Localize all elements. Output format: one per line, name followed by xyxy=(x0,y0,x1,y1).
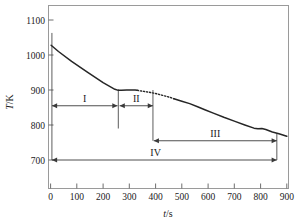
y-axis-title-unit: /K xyxy=(4,93,15,104)
y-tick-label: 1100 xyxy=(26,16,45,26)
region-label-II: II xyxy=(133,93,140,104)
y-tick-label: 800 xyxy=(31,121,46,131)
x-tick-label: 200 xyxy=(96,192,111,202)
x-tick-label: 600 xyxy=(201,192,216,202)
x-tick-label: 800 xyxy=(253,192,268,202)
chart-container: 1100 1000 900 800 700 T/K 0 xyxy=(0,0,299,224)
x-tick-label: 900 xyxy=(280,192,295,202)
x-axis-title-unit: /s xyxy=(166,208,173,219)
y-tick-label: 1000 xyxy=(26,51,45,61)
y-axis-title: T/K xyxy=(4,93,15,109)
x-tick-label: 500 xyxy=(175,192,190,202)
region-label-I: I xyxy=(83,93,86,104)
chart-background xyxy=(0,0,299,224)
x-tick-label: 700 xyxy=(227,192,242,202)
region-label-III: III xyxy=(210,128,220,139)
x-tick-label: 100 xyxy=(70,192,85,202)
x-tick-label: 0 xyxy=(48,192,53,202)
region-label-IV: IV xyxy=(150,147,161,158)
cooling-curve-chart: 1100 1000 900 800 700 T/K 0 xyxy=(0,0,299,224)
y-tick-label: 700 xyxy=(31,156,46,166)
x-tick-label: 400 xyxy=(148,192,163,202)
svg-text:T/K: T/K xyxy=(4,93,15,109)
y-tick-label: 900 xyxy=(31,86,46,96)
x-tick-label: 300 xyxy=(122,192,137,202)
x-axis-title: t/s xyxy=(163,208,173,219)
